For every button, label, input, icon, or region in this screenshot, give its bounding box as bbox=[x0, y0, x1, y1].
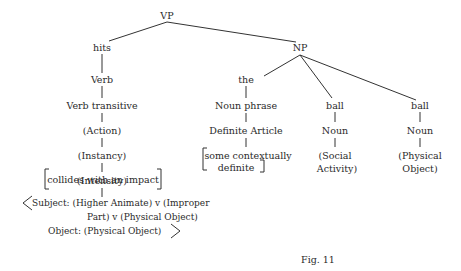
node-verb: Verb bbox=[91, 74, 113, 85]
restriction-line1: Subject: (Higher Animate) v (Improper bbox=[32, 198, 209, 209]
marker-activity: Activity) bbox=[317, 163, 357, 174]
node-hits: hits bbox=[93, 42, 111, 53]
figure-caption: Fig. 11 bbox=[301, 254, 335, 265]
node-instancy: (Instancy) bbox=[78, 150, 126, 161]
node-np: NP bbox=[293, 42, 308, 53]
node-the: the bbox=[238, 74, 254, 85]
node-action: (Action) bbox=[83, 125, 121, 136]
distinguisher-collides: collides with an impact bbox=[47, 174, 159, 185]
marker-physical: (Physical bbox=[398, 150, 442, 161]
node-noun-phrase: Noun phrase bbox=[215, 100, 277, 111]
node-noun-1: Noun bbox=[322, 125, 348, 136]
marker-social: (Social bbox=[319, 150, 352, 161]
node-vp: VP bbox=[160, 10, 173, 21]
distinguisher-contextually-line2: definite bbox=[218, 162, 255, 173]
node-noun-2: Noun bbox=[407, 125, 433, 136]
node-ball-1: ball bbox=[326, 100, 344, 111]
restriction-line2: Part) v (Physical Object) bbox=[87, 212, 198, 223]
node-verb-transitive: Verb transitive bbox=[66, 100, 137, 111]
node-ball-2: ball bbox=[411, 100, 429, 111]
distinguisher-contextually-line1: some contextually bbox=[204, 150, 291, 161]
distinguisher-text: collides with an impact bbox=[47, 174, 159, 185]
marker-object: Object) bbox=[402, 163, 437, 174]
node-definite-article: Definite Article bbox=[209, 125, 282, 136]
restriction-line3: Object: (Physical Object) bbox=[48, 226, 161, 237]
